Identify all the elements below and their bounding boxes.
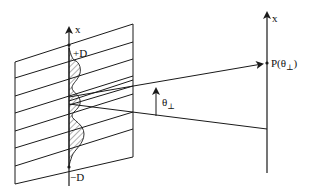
plus-d-marker [67, 43, 70, 46]
rays [69, 64, 267, 129]
point-p-marker [265, 61, 268, 64]
minus-d-marker [67, 165, 70, 168]
plus-d-label: +D [73, 47, 87, 59]
point-p-label: P(θ⊥) [271, 57, 298, 72]
ray-upper [69, 64, 262, 97]
slit-axis-label: x [75, 23, 81, 35]
screen-axis-label: x [272, 12, 278, 24]
ray-middle-1 [69, 80, 133, 101]
angle-label: θ⊥ [162, 96, 175, 111]
minus-d-label: −D [70, 171, 84, 183]
intensity-profile [69, 48, 84, 167]
diffraction-diagram: x +D −D x P(θ⊥) θ⊥ [0, 0, 313, 195]
